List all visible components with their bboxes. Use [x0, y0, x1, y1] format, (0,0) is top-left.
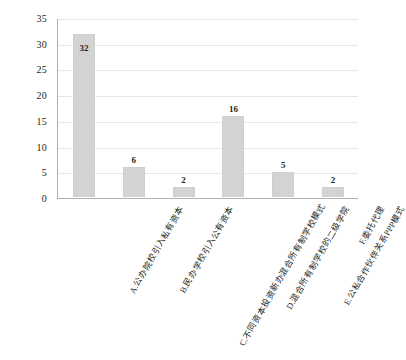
y-tick-label: 0 [42, 194, 47, 204]
bar-slot: 16 [209, 19, 259, 197]
bar-series: 32 6 2 16 5 [59, 19, 358, 197]
y-tick-label: 30 [37, 40, 47, 50]
bar[interactable]: 32 [73, 34, 95, 197]
bar[interactable]: 5 [272, 172, 294, 197]
bar-value-label: 2 [331, 176, 336, 185]
bar-value-label: 6 [131, 156, 136, 165]
bar[interactable]: 2 [173, 187, 195, 197]
bar[interactable]: 2 [322, 187, 344, 197]
bar-value-label: 32 [79, 44, 88, 53]
bar-slot: 5 [258, 19, 308, 197]
bar-slot: 2 [308, 19, 358, 197]
bar-value-label: 5 [281, 161, 286, 170]
bar-slot: 2 [159, 19, 209, 197]
y-tick-label: 25 [37, 65, 47, 75]
bar-slot: 6 [109, 19, 159, 197]
y-tick-label: 35 [37, 14, 47, 24]
x-axis-category-labels: A.公办院校引入私有资本 B.民办学校引入公有资本 C.不同资本投资新办混合所有… [57, 200, 358, 360]
bar-value-label: 16 [229, 105, 238, 114]
y-tick-label: 15 [37, 117, 47, 127]
y-tick-label: 10 [37, 143, 47, 153]
bar[interactable]: 6 [123, 167, 145, 198]
bar-slot: 32 [59, 19, 109, 197]
y-tick-label: 20 [37, 91, 47, 101]
bar[interactable]: 16 [222, 116, 244, 197]
plot-area: 32 6 2 16 5 [57, 19, 358, 199]
bar-value-label: 2 [181, 176, 186, 185]
y-tick-label: 5 [42, 168, 47, 178]
y-axis: 35 30 25 20 15 10 5 0 [0, 19, 52, 199]
